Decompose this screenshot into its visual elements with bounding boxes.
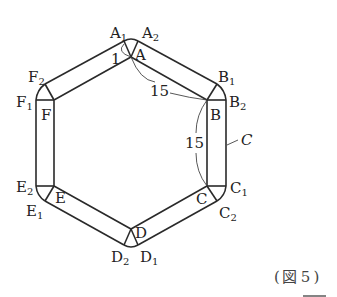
label-B2: B2 [229,93,246,112]
dimension-curve-BC-bottom [196,153,207,186]
label-B: B [210,106,221,124]
band-edge-D2-E1 [45,201,124,245]
label-F1: F1 [16,93,33,112]
label-F2: F2 [28,68,45,87]
label-C1: C1 [230,179,248,198]
label-D1: D1 [140,248,158,267]
label-E2: E2 [16,178,33,197]
leader-line-C [227,140,238,145]
label-A: A [134,46,146,64]
label-width: 1 [111,50,121,68]
label-A2: A2 [141,24,159,43]
label-C2: C2 [219,204,237,223]
label-F: F [41,106,51,124]
label-E1: E1 [26,202,43,221]
label-A1: A1 [109,24,127,43]
label-E: E [55,189,66,207]
dimension-curve-BC-top [196,100,207,133]
label-B1: B1 [218,68,235,87]
label-C: C [196,190,207,208]
label-D: D [135,224,147,242]
hexagon-band-diagram: A1 A2 A 1 B1 B2 B C 15 15 C1 C2 C D D1 D… [0,0,337,297]
label-side-BC: 15 [185,134,204,152]
figure-caption: (図5) [274,268,319,286]
band-edge-A2-B1 [138,41,217,84]
label-curve-C: C [241,131,253,149]
label-D2: D2 [111,248,129,267]
label-side-AB: 15 [150,82,169,100]
